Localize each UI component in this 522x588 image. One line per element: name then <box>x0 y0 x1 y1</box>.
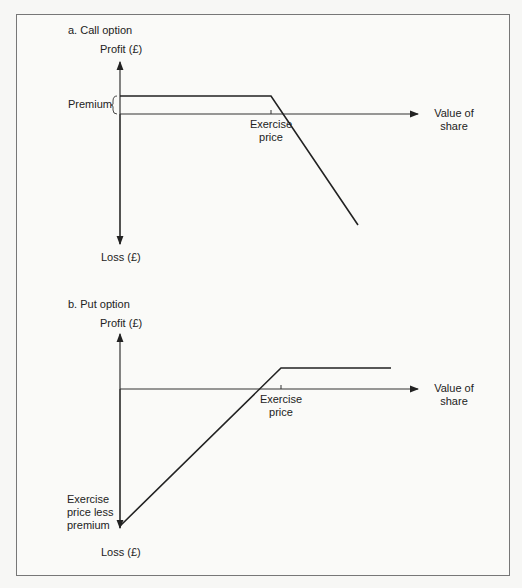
exercise-less-premium-label: Exerciseprice lesspremium <box>67 493 113 532</box>
call-profit-axis-label: Profit (£) <box>100 43 142 56</box>
premium-label: Premium <box>68 98 112 111</box>
call-loss-axis-label: Loss (£) <box>101 251 141 264</box>
put-profit-axis-label: Profit (£) <box>100 317 142 330</box>
put-x-axis-label: Value ofshare <box>424 382 484 408</box>
call-exercise-price-label: Exerciseprice <box>241 118 301 144</box>
call-x-axis-label: Value ofshare <box>424 107 484 133</box>
put-exercise-price-label: Exerciseprice <box>251 393 311 419</box>
call-option-title: a. Call option <box>68 24 132 37</box>
put-option-title: b. Put option <box>68 298 130 311</box>
put-loss-axis-label: Loss (£) <box>101 546 141 559</box>
